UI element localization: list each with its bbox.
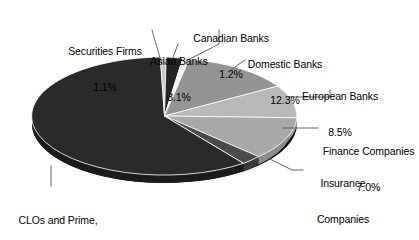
slice-label-clos-name-line1: CLOs and Prime, (4, 214, 112, 226)
slice-label-securities-firms-name: Securities Firms (57, 45, 153, 57)
slice-label-european-banks-name: European Banks (293, 90, 387, 102)
slice-label-insurance-companies: Insurance Companies 2.1% (305, 152, 381, 240)
slice-label-clos: CLOs and Prime, Hedge, and High Yield Fu… (4, 189, 112, 240)
slice-label-securities-firms-value: 1.1% (57, 81, 153, 93)
pie-chart: Securities Firms 1.1% Asian Banks 3.1% C… (0, 0, 419, 240)
slice-label-securities-firms: Securities Firms 1.1% (57, 20, 153, 118)
slice-label-insurance-companies-name-line2: Companies (305, 213, 381, 225)
slice-label-insurance-companies-name-line1: Insurance (305, 177, 381, 189)
